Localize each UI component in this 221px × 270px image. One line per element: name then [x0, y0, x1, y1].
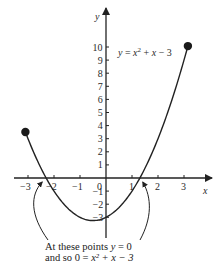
- endpoint-dot: [21, 128, 29, 136]
- y-tick-label: 5: [98, 107, 103, 118]
- annotation-line-1: At these points y = 0: [45, 241, 134, 252]
- y-tick-label: 7: [98, 81, 103, 92]
- y-tick-label: 8: [98, 68, 103, 79]
- x-axis-label: x: [202, 185, 208, 196]
- endpoint-dot: [184, 42, 192, 50]
- y-tick-label: −1: [93, 186, 104, 197]
- x-tick-label: 3: [181, 181, 186, 192]
- y-tick-label: −2: [93, 199, 104, 210]
- y-tick-label: 2: [98, 146, 103, 157]
- parabola-chart: −3−2−1012312345678910−1−2−3 x y y = x2 +…: [0, 0, 221, 270]
- x-tick-label: −3: [20, 181, 31, 192]
- axes: [14, 8, 212, 238]
- curve-equation-label: y = x2 + x − 3: [117, 46, 172, 58]
- y-tick-label: 3: [98, 133, 103, 144]
- y-axis-label: y: [94, 11, 100, 22]
- y-tick-label: 6: [98, 94, 103, 105]
- x-tick-label: 2: [155, 181, 160, 192]
- y-tick-label: 10: [93, 42, 103, 53]
- y-tick-label: 4: [98, 120, 103, 131]
- annotation-line-2: and so 0 = x² + x − 3: [45, 252, 134, 263]
- x-tick-label: −1: [72, 181, 83, 192]
- y-tick-label: 1: [98, 159, 103, 170]
- root-annotation: At these points y = 0 and so 0 = x² + x …: [45, 241, 134, 263]
- right-root-arrow: [140, 182, 149, 240]
- y-tick-label: 9: [98, 55, 103, 66]
